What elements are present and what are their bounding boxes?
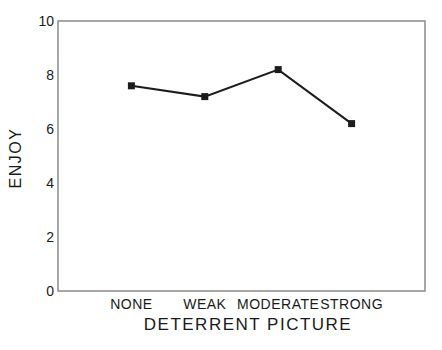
line-chart-figure: ENJOY DETERRENT PICTURE 0246810 NONEWEAK… [0,0,442,350]
y-tick-label-2: 2 [20,229,54,245]
data-point-marker-strong [348,120,355,127]
y-tick-label-4: 4 [20,175,54,191]
y-tick-label-10: 10 [20,13,54,29]
data-point-marker-moderate [275,66,282,73]
plot-frame [58,21,425,291]
y-tick-label-6: 6 [20,121,54,137]
x-axis-title: DETERRENT PICTURE [58,315,438,335]
y-tick-label-0: 0 [20,283,54,299]
y-tick-label-8: 8 [20,67,54,83]
data-point-marker-none [128,82,135,89]
x-tick-label-strong: STRONG [302,296,402,312]
data-line [131,70,351,124]
data-point-marker-weak [201,93,208,100]
